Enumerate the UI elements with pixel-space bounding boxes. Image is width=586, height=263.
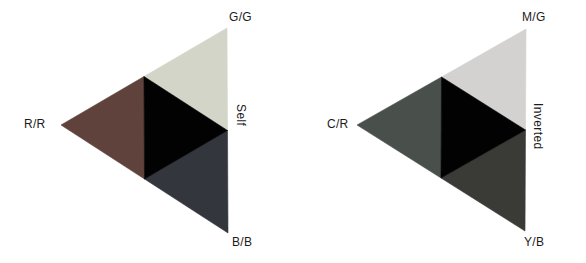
inverted-left-region-cr: [357, 77, 442, 178]
inverted-triangle-group: [357, 29, 526, 231]
figure-canvas: G/G R/R B/B Self M/G C/R Y/B Inverted: [0, 0, 586, 263]
inverted-side-label: Inverted: [531, 103, 545, 150]
self-triangle-group: [61, 28, 228, 233]
self-top-corner-label: G/G: [229, 11, 252, 24]
self-left-corner-label: R/R: [24, 118, 46, 131]
triangle-diagrams-svg: [0, 0, 586, 263]
inverted-top-corner-label: M/G: [522, 11, 546, 24]
inverted-left-corner-label: C/R: [327, 118, 349, 131]
inverted-bottom-corner-label: Y/B: [524, 236, 544, 249]
self-left-region-rr: [61, 77, 145, 180]
self-side-label: Self: [234, 104, 248, 126]
self-bottom-corner-label: B/B: [232, 236, 252, 249]
